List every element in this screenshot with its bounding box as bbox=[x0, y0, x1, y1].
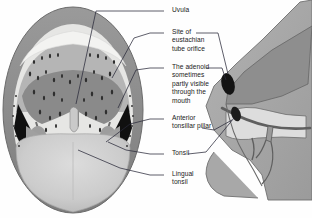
open-mouth-anterior-view bbox=[3, 7, 143, 213]
label-lingual-tonsil: Lingual tonsil bbox=[172, 170, 194, 187]
anatomy-illustration bbox=[0, 0, 312, 218]
label-anterior-tonsillar-pillar: Anterior tonsillar pillar bbox=[172, 114, 211, 131]
label-tonsil: Tonsil bbox=[172, 149, 189, 157]
figure-canvas: Uvula Site of eustachian tube orifice Th… bbox=[0, 0, 312, 218]
sagittal-head-profile bbox=[206, 0, 312, 200]
label-uvula: Uvula bbox=[172, 6, 189, 14]
label-eustachian-tube: Site of eustachian tube orifice bbox=[172, 28, 205, 53]
uvula bbox=[70, 107, 78, 132]
label-adenoid: The adenoid sometimes partly visible thr… bbox=[172, 63, 209, 105]
